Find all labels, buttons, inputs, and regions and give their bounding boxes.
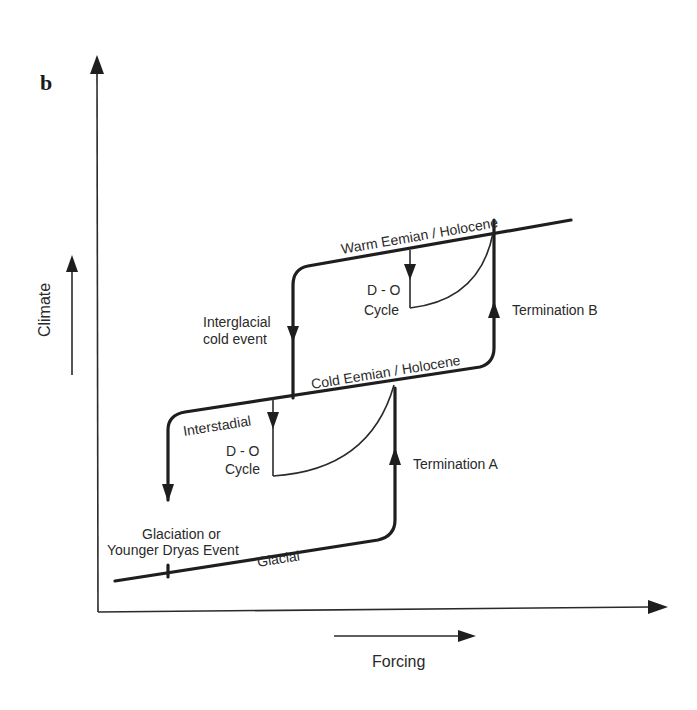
glaciation-arrow-icon <box>162 484 174 502</box>
x-axis-label: Forcing <box>372 653 425 670</box>
panel-label: b <box>40 70 52 95</box>
y-axis-label: Climate <box>36 283 53 337</box>
do-cycle-lower-arrow-icon <box>267 412 279 429</box>
do-cycle-lower-label-line1: D - O <box>226 443 260 459</box>
termination-b-arrow-icon <box>488 301 500 318</box>
termination-a-label: Termination A <box>413 456 498 472</box>
interglacial-cold-event-label-line2: cold event <box>203 331 267 347</box>
interglacial-cold-event-arrow-icon <box>287 326 299 342</box>
y-axis <box>90 55 104 612</box>
glaciation-label-line1: Glaciation or <box>142 526 221 542</box>
do-cycle-lower <box>267 385 394 476</box>
climate-up-arrow-icon <box>66 255 78 272</box>
glacial-branch-label: Glacial <box>256 547 301 569</box>
x-axis-arrow-icon <box>648 600 668 614</box>
x-axis <box>98 600 668 614</box>
do-cycle-upper-arrow-icon <box>404 264 416 280</box>
termination-b-label: Termination B <box>512 302 598 318</box>
hysteresis-diagram: b Climate Forcing <box>0 0 697 710</box>
y-axis-arrow-icon <box>90 55 104 74</box>
do-cycle-upper-label-line2: Cycle <box>364 302 399 318</box>
do-cycle-upper <box>404 233 493 308</box>
climate-indicator: Climate <box>36 255 78 375</box>
forcing-indicator: Forcing <box>334 630 476 670</box>
termination-a-arrow-icon <box>389 447 401 465</box>
glaciation-label-line2: Younger Dryas Event <box>107 542 239 558</box>
do-cycle-lower-label-line2: Cycle <box>225 461 260 477</box>
forcing-right-arrow-icon <box>458 630 476 642</box>
interstadial-label: Interstadial <box>182 412 252 439</box>
do-cycle-upper-label-line1: D - O <box>367 282 401 298</box>
interglacial-cold-event-label-line1: Interglacial <box>203 314 271 330</box>
